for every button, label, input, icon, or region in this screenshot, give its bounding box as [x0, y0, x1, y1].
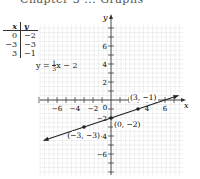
x-tick-label: −2 — [88, 105, 98, 113]
y-tick-label: 4 — [103, 61, 108, 69]
point-label: (0, −2) — [114, 120, 141, 129]
y-tick-label: 2 — [103, 79, 107, 87]
x-tick-label: −4 — [70, 105, 81, 113]
y-tick-label: −6 — [97, 151, 108, 159]
y-axis-label: y — [102, 13, 108, 22]
equation-label: y = 13x − 2 — [36, 60, 78, 71]
line-arrow-left-icon — [43, 137, 49, 143]
y-tick-label: 6 — [103, 43, 108, 51]
graph: xy−6−4−246642−2−4−60(0, −2)(−3, −3)(3, −… — [0, 0, 200, 179]
x-tick-label: −6 — [52, 105, 63, 113]
equation-lhs: y = — [36, 61, 50, 70]
data-point — [82, 125, 86, 129]
data-point — [109, 116, 113, 120]
point-label: (−3, −3) — [67, 131, 100, 140]
x-tick-label: 6 — [163, 105, 168, 113]
x-axis-label: x — [184, 101, 189, 110]
equation-rhs: x − 2 — [56, 61, 77, 70]
point-label: (3, −1) — [130, 93, 157, 102]
y-axis-arrow-icon — [109, 14, 113, 19]
origin-label: 0 — [103, 104, 107, 112]
data-point — [136, 107, 140, 111]
